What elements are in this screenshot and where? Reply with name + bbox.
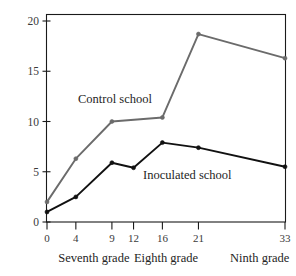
x-tick-label: 33 (280, 232, 292, 244)
x-tick-label: 9 (109, 232, 115, 244)
smoking-line-chart: 05101520 04912162133 Control school Inoc… (0, 0, 296, 276)
x-tick-label: 21 (193, 232, 204, 244)
y-tick-label: 5 (33, 166, 39, 178)
series-label-control: Control school (78, 92, 152, 106)
y-tick-label: 10 (28, 116, 40, 128)
data-point (74, 157, 78, 161)
data-point (160, 115, 164, 119)
data-point (132, 166, 136, 170)
data-point (160, 141, 164, 145)
data-point (74, 195, 78, 199)
chart-figure: Smoking (percent) 05101520 04912162133 C… (0, 0, 296, 276)
x-tick-label: 0 (44, 232, 50, 244)
data-point (45, 200, 49, 204)
x-tick-label: 12 (128, 232, 139, 244)
data-point (283, 165, 287, 169)
data-point (196, 146, 200, 150)
grade-label: Ninth grade (230, 251, 290, 265)
data-point (45, 210, 49, 214)
grade-label: Eighth grade (134, 251, 199, 265)
data-point (283, 56, 287, 60)
y-tick-label: 15 (28, 65, 40, 77)
x-tick-label: 16 (157, 232, 169, 244)
y-tick-label: 20 (28, 15, 40, 27)
grade-label: Seventh grade (58, 251, 130, 265)
x-tick-label: 4 (73, 232, 79, 244)
series-label-inoculated: Inoculated school (143, 168, 232, 182)
y-tick-label: 0 (33, 216, 39, 228)
data-point (110, 161, 114, 165)
data-point (110, 120, 114, 124)
data-point (196, 32, 200, 36)
grade-group-labels: Seventh gradeEighth gradeNinth grade (58, 251, 290, 265)
